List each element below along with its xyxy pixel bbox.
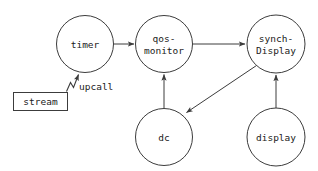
- diagram-canvas: timer qos- monitor synch- Display dc dis…: [0, 0, 318, 171]
- node-display-label: display: [256, 132, 296, 143]
- node-stream[interactable]: stream: [14, 93, 68, 111]
- node-dc[interactable]: dc: [136, 109, 193, 166]
- node-synch-display-label-line1: synch-: [259, 33, 293, 44]
- node-timer-label: timer: [71, 39, 100, 50]
- node-qos-monitor-label-line2: monitor: [144, 45, 184, 56]
- diagram-svg: timer qos- monitor synch- Display dc dis…: [0, 0, 318, 171]
- edge-stream-to-timer-upcall: [67, 75, 79, 92]
- node-dc-label: dc: [158, 132, 169, 143]
- edge-label-upcall: upcall: [79, 81, 113, 92]
- edge-synch-display-to-dc: [187, 66, 257, 113]
- node-qos-monitor-label-line1: qos-: [153, 33, 176, 44]
- node-synch-display-label-line2: Display: [256, 45, 296, 56]
- node-synch-display[interactable]: synch- Display: [247, 15, 305, 73]
- node-timer[interactable]: timer: [57, 16, 114, 73]
- node-qos-monitor[interactable]: qos- monitor: [136, 16, 193, 73]
- node-display[interactable]: display: [247, 108, 305, 166]
- node-stream-label: stream: [23, 96, 58, 107]
